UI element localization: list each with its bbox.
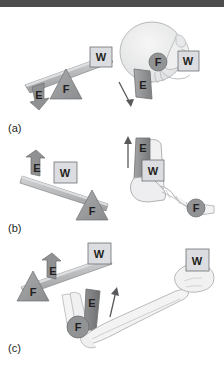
weight-block-c: W: [88, 243, 111, 264]
effort-label-b: E: [33, 162, 40, 174]
weight-label-a: W: [96, 51, 107, 63]
weight-block-a: W: [90, 47, 112, 67]
fulcrum-label-a: F: [63, 83, 70, 95]
weight-label-foot: W: [148, 165, 159, 177]
fulcrum-circle-c: F: [67, 316, 89, 338]
fulcrum-label-b: F: [89, 205, 96, 217]
effort-label-a: E: [35, 89, 42, 101]
fulcrum-circle-b: F: [187, 199, 205, 217]
orbit: [176, 35, 186, 47]
lever-classes-figure: F W E: [0, 0, 224, 372]
weight-label-arm: W: [192, 255, 203, 267]
panel-b-graphic: F W E E: [0, 120, 224, 235]
weight-label-skull: W: [183, 55, 194, 67]
panel-c: F W E: [0, 235, 224, 372]
anatomy-arm-c: E W F: [62, 249, 214, 348]
fulcrum-label-arm: F: [75, 321, 82, 333]
force-arrow-arm-c: [110, 287, 119, 317]
weight-label-b: W: [60, 167, 71, 179]
panel-b: F W E E: [0, 120, 224, 235]
panel-label-b: (b): [8, 222, 21, 234]
fulcrum-circle-a: F: [149, 53, 167, 71]
anatomy-skull-a: E F W: [119, 22, 199, 107]
force-arrow-foot-b: [124, 136, 132, 168]
neck-muscle-effort-a: E: [134, 69, 152, 99]
force-arrow-skull-a: [119, 82, 134, 107]
radius-ulna: [86, 290, 189, 344]
fulcrum-label-foot: F: [193, 202, 200, 214]
effort-label-foot: E: [139, 142, 146, 154]
weight-block-b: W: [54, 162, 77, 183]
fulcrum-label-c: F: [30, 286, 37, 298]
fulcrum-label-skull: F: [155, 56, 162, 68]
forearm-inner-line: [92, 299, 180, 339]
panel-a-graphic: F W E: [0, 7, 224, 120]
anatomy-foot-b: E W F: [124, 136, 214, 217]
top-border-bar: [0, 0, 224, 7]
lever-diagram-a: F W E: [25, 47, 113, 110]
weight-label-c: W: [94, 248, 105, 260]
effort-label-skull: E: [139, 79, 146, 91]
weight-block-foot-b: W: [142, 160, 164, 181]
weight-block-skull-a: W: [178, 51, 199, 71]
panel-label-c: (c): [8, 342, 21, 354]
panel-c-graphic: F W E: [0, 235, 224, 372]
effort-arrow-b: E: [26, 150, 45, 176]
effort-label-arm: E: [88, 297, 95, 309]
panel-a: F W E: [0, 7, 224, 120]
lever-diagram-b: F W E: [20, 150, 108, 220]
effort-label-c: E: [49, 265, 56, 277]
weight-block-arm-c: W: [186, 249, 209, 271]
